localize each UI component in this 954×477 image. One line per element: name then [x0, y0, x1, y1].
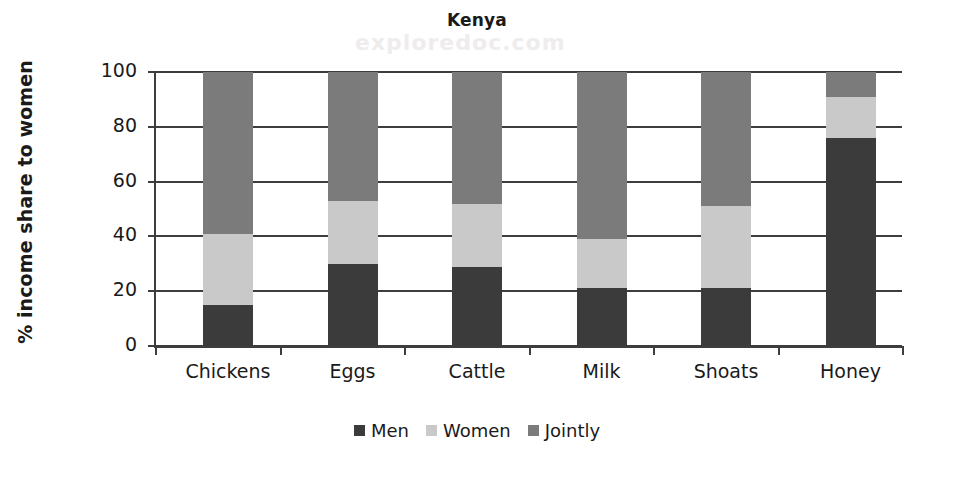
y-tick-mark-60 [148, 181, 156, 183]
bar-segment-eggs-men[interactable] [328, 264, 378, 346]
bar-chickens[interactable] [203, 72, 253, 346]
y-tick-mark-100 [148, 71, 156, 73]
legend-label-women: Women [443, 420, 511, 441]
bar-segment-eggs-women[interactable] [328, 201, 378, 264]
y-tick-label-40: 40 [77, 223, 137, 245]
y-tick-mark-40 [148, 235, 156, 237]
bar-segment-shoats-women[interactable] [701, 206, 751, 288]
gridline-100 [155, 71, 902, 73]
bar-segment-milk-men[interactable] [577, 288, 627, 346]
legend-label-men: Men [371, 420, 409, 441]
legend-item-jointly[interactable]: Jointly [528, 420, 600, 441]
x-tick-label-cattle: Cattle [407, 360, 547, 382]
y-tick-label-0: 0 [77, 333, 137, 355]
y-tick-label-20: 20 [77, 278, 137, 300]
bar-segment-chickens-women[interactable] [203, 234, 253, 305]
chart-canvas: exploredoc.com Kenya % income share to w… [0, 0, 954, 477]
bar-segment-chickens-jointly[interactable] [203, 72, 253, 234]
y-tick-mark-80 [148, 126, 156, 128]
bar-segment-shoats-men[interactable] [701, 288, 751, 346]
bar-honey[interactable] [826, 72, 876, 346]
x-tick-mark-milk [529, 346, 531, 355]
legend-item-women[interactable]: Women [426, 420, 511, 441]
x-tick-label-shoats: Shoats [656, 360, 796, 382]
legend-label-jointly: Jointly [545, 420, 600, 441]
bar-segment-milk-jointly[interactable] [577, 72, 627, 239]
x-tick-mark-chickens [155, 346, 157, 355]
legend-swatch-women-icon [426, 425, 437, 436]
x-tick-label-eggs: Eggs [283, 360, 423, 382]
bar-segment-cattle-jointly[interactable] [452, 72, 502, 204]
chart-legend: MenWomenJointly [0, 420, 954, 441]
bar-segment-shoats-jointly[interactable] [701, 72, 751, 206]
y-axis-title: % income share to women [14, 52, 42, 352]
x-tick-mark-eggs [280, 346, 282, 355]
bar-segment-chickens-men[interactable] [203, 305, 253, 346]
legend-swatch-jointly-icon [528, 425, 539, 436]
y-tick-label-60: 60 [77, 169, 137, 191]
gridline-80 [155, 126, 902, 128]
bar-milk[interactable] [577, 72, 627, 346]
plot-area: 020406080100 [155, 72, 902, 346]
x-tick-label-honey: Honey [781, 360, 921, 382]
gridline-20 [155, 290, 902, 292]
x-tick-mark-cattle [404, 346, 406, 355]
x-tick-label-milk: Milk [532, 360, 672, 382]
bar-segment-cattle-men[interactable] [452, 267, 502, 346]
bar-segment-honey-women[interactable] [826, 97, 876, 138]
bar-segment-cattle-women[interactable] [452, 204, 502, 267]
bar-eggs[interactable] [328, 72, 378, 346]
x-tick-mark-honey [778, 346, 780, 355]
y-tick-label-80: 80 [77, 114, 137, 136]
legend-swatch-men-icon [354, 425, 365, 436]
y-tick-mark-20 [148, 290, 156, 292]
x-tick-label-chickens: Chickens [158, 360, 298, 382]
bar-segment-milk-women[interactable] [577, 239, 627, 288]
x-tick-mark-end [902, 346, 904, 355]
legend-item-men[interactable]: Men [354, 420, 409, 441]
chart-title: Kenya [0, 10, 954, 30]
bar-segment-honey-jointly[interactable] [826, 72, 876, 97]
y-tick-label-100: 100 [77, 59, 137, 81]
gridline-40 [155, 235, 902, 237]
bar-segment-eggs-jointly[interactable] [328, 72, 378, 201]
watermark-text: exploredoc.com [355, 30, 566, 55]
x-tick-mark-shoats [653, 346, 655, 355]
bar-cattle[interactable] [452, 72, 502, 346]
bar-segment-honey-men[interactable] [826, 138, 876, 346]
gridline-60 [155, 181, 902, 183]
bar-shoats[interactable] [701, 72, 751, 346]
y-axis-line [154, 72, 156, 348]
